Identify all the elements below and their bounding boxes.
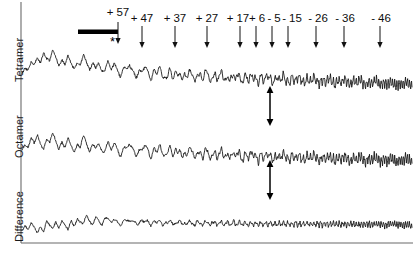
charge-arrow-6 [253,26,258,48]
charge-arrow-17 [237,26,242,48]
charge-state-label-57: + 57 [107,6,129,18]
spectra-canvas [0,0,414,254]
charge-arrow--26 [313,26,318,48]
charge-state-label--5: - 5 [267,12,280,24]
double-headed-arrow-group [267,86,274,200]
charge-arrow--36 [341,26,346,48]
trace-label-difference: Difference [13,191,25,242]
charge-state-label-17: + 17 [227,12,249,24]
charge-state-arrow-group [115,22,382,48]
charge-arrow--46 [377,26,382,48]
double-arrow-octamer-difference-spacing [267,160,274,200]
charge-arrow-37 [172,26,177,48]
double-arrow-tetramer-octamer-spacing [267,86,274,126]
charge-arrow-27 [204,26,209,48]
spectra-traces [22,50,412,232]
charge-state-label--46: - 46 [371,12,390,24]
charge-arrow-47 [139,26,144,48]
charge-state-label-27: + 27 [196,12,218,24]
mass-spectrum-figure: Tetramer Octamer Difference + 57+ 47+ 37… [0,0,414,254]
trace-tetramer [22,50,412,91]
charge-state-label--26: - 26 [308,12,327,24]
trace-octamer [22,133,412,167]
charge-state-label--36: - 36 [335,12,354,24]
charge-arrow--15 [285,26,290,48]
charge-state-label-47: + 47 [131,12,153,24]
charge-arrow--5 [269,26,274,48]
charge-state-label-37: + 37 [164,12,186,24]
trace-difference [22,215,412,232]
asterisk-annotation: * [110,35,115,48]
charge-state-label--15: - 15 [282,12,301,24]
trace-label-octamer: Octamer [13,115,25,158]
trace-label-tetramer: Tetramer [13,38,25,82]
charge-state-label-6: + 6 [249,12,265,24]
axes-group [21,2,413,243]
